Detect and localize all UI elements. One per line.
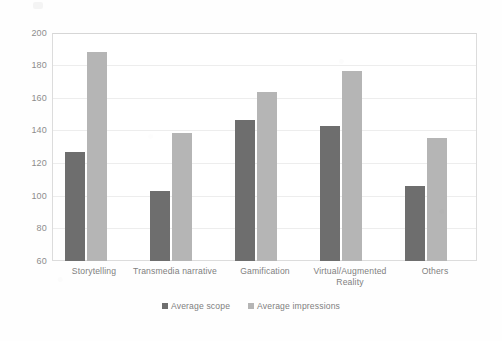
legend-swatch-icon — [162, 303, 168, 309]
bar-average-impressions[interactable] — [427, 138, 447, 261]
y-tick-label: 200 — [7, 28, 47, 38]
bar-group-storytelling — [65, 34, 107, 261]
bar-average-impressions[interactable] — [342, 71, 362, 261]
legend-item-average-impressions[interactable]: Average impressions — [248, 301, 340, 311]
y-tick-label: 160 — [7, 93, 47, 103]
bar-group-gamification — [235, 34, 277, 261]
y-tick-label: 180 — [7, 60, 47, 70]
y-tick-label: 80 — [7, 223, 47, 233]
bar-group-virtual-augmented-reality — [320, 34, 362, 261]
legend-label: Average impressions — [257, 301, 340, 311]
x-tick-label-transmedia: Transmedia narrative — [120, 266, 230, 277]
legend-item-average-scope[interactable]: Average scope — [162, 301, 230, 311]
bar-average-impressions[interactable] — [172, 133, 192, 261]
bar-average-impressions[interactable] — [257, 92, 277, 261]
bar-average-scope[interactable] — [150, 191, 170, 261]
y-tick-label: 140 — [7, 125, 47, 135]
x-tick-label-others: Others — [385, 266, 485, 277]
legend-label: Average scope — [171, 301, 230, 311]
bars-layer — [53, 34, 476, 261]
bar-group-others — [405, 34, 447, 261]
y-tick-label: 120 — [7, 158, 47, 168]
scan-artifact — [33, 2, 43, 9]
bar-average-scope[interactable] — [235, 120, 255, 261]
bar-average-impressions[interactable] — [87, 52, 107, 261]
bar-average-scope[interactable] — [65, 152, 85, 261]
bar-group-transmedia-narrative — [150, 34, 192, 261]
x-axis: Storytelling Transmedia narrative Gamifi… — [52, 266, 477, 296]
legend-swatch-icon — [248, 303, 254, 309]
y-tick-label: 100 — [7, 191, 47, 201]
y-tick-label: 60 — [7, 256, 47, 266]
bar-average-scope[interactable] — [320, 126, 340, 261]
bar-chart: 200 180 160 140 120 100 80 60 — [0, 0, 502, 341]
legend: Average scope Average impressions — [0, 301, 502, 311]
bar-average-scope[interactable] — [405, 186, 425, 261]
